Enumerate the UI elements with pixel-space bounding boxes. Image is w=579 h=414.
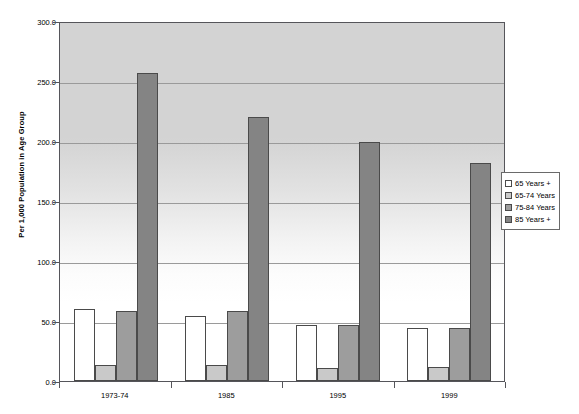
legend-item-label: 85 Years + xyxy=(515,215,551,224)
legend-item: 65 Years + xyxy=(505,177,555,189)
y-axis-tick-label: 0.0 xyxy=(10,378,56,387)
legend-swatch-icon xyxy=(505,216,512,223)
bar xyxy=(137,73,158,381)
x-axis-tick-label: 1995 xyxy=(282,391,394,407)
bar xyxy=(248,117,269,381)
y-axis-tick-mark xyxy=(53,382,59,383)
bar xyxy=(185,316,206,381)
x-axis-tick-label: 1999 xyxy=(394,391,506,407)
y-axis-tick-labels: 300.0250.0200.0150.0100.050.00.0 xyxy=(0,22,56,382)
y-axis-tick-label: 250.0 xyxy=(10,78,56,87)
bar xyxy=(359,142,380,381)
y-axis-tick-mark xyxy=(53,22,59,23)
bar xyxy=(428,367,449,381)
x-axis-tick-label: 1985 xyxy=(171,391,283,407)
legend-item-label: 75-84 Years xyxy=(515,203,555,212)
y-axis-tick-mark xyxy=(53,262,59,263)
y-axis-tick-label: 200.0 xyxy=(10,138,56,147)
x-axis-tick-marks xyxy=(59,382,505,389)
bar xyxy=(116,311,137,381)
y-axis-tick-label: 100.0 xyxy=(10,258,56,267)
legend-swatch-icon xyxy=(505,192,512,199)
bar-groups xyxy=(60,23,504,381)
legend-swatch-icon xyxy=(505,180,512,187)
y-axis-tick-mark xyxy=(53,142,59,143)
bar xyxy=(470,163,491,381)
bar xyxy=(74,309,95,381)
x-axis-tick-mark xyxy=(171,382,172,388)
bar xyxy=(338,325,359,381)
bar xyxy=(206,365,227,381)
bar xyxy=(227,311,248,381)
x-axis-tick-labels: 1973-74198519951999 xyxy=(59,391,505,407)
bar xyxy=(296,325,317,381)
legend-item: 65-74 Years xyxy=(505,189,555,201)
x-axis-tick-label: 1973-74 xyxy=(59,391,171,407)
bar-chart: Per 1,000 Population in Age Group 300.02… xyxy=(0,0,579,414)
bar xyxy=(317,368,338,381)
y-axis-tick-label: 50.0 xyxy=(10,318,56,327)
legend-item: 75-84 Years xyxy=(505,201,555,213)
bar xyxy=(95,365,116,381)
y-axis-tick-mark xyxy=(53,322,59,323)
legend-item-label: 65 Years + xyxy=(515,179,551,188)
legend-swatch-icon xyxy=(505,204,512,211)
legend-item: 85 Years + xyxy=(505,213,555,225)
bar-group xyxy=(171,23,282,381)
bar-group xyxy=(60,23,171,381)
x-axis-tick-mark xyxy=(394,382,395,388)
y-axis-tick-label: 300.0 xyxy=(10,18,56,27)
bar-group xyxy=(393,23,504,381)
x-axis-tick-mark xyxy=(282,382,283,388)
chart-legend: 65 Years +65-74 Years75-84 Years85 Years… xyxy=(501,172,560,230)
y-axis-tick-label: 150.0 xyxy=(10,198,56,207)
y-axis-tick-mark xyxy=(53,82,59,83)
y-axis-tick-mark xyxy=(53,202,59,203)
legend-item-label: 65-74 Years xyxy=(515,191,555,200)
plot-area xyxy=(59,22,505,382)
x-axis-tick-mark xyxy=(505,382,506,388)
bar xyxy=(449,328,470,381)
bar xyxy=(407,328,428,381)
x-axis-tick-mark xyxy=(59,382,60,388)
bar-group xyxy=(282,23,393,381)
